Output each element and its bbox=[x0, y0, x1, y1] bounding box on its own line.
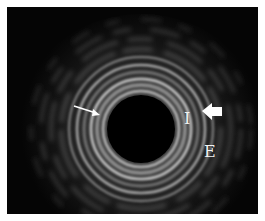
ultrasound-rings bbox=[7, 7, 258, 214]
label-i: I bbox=[184, 111, 190, 127]
ultrasound-image: I E bbox=[7, 7, 258, 214]
label-e: E bbox=[204, 144, 216, 160]
lumen bbox=[107, 95, 175, 163]
